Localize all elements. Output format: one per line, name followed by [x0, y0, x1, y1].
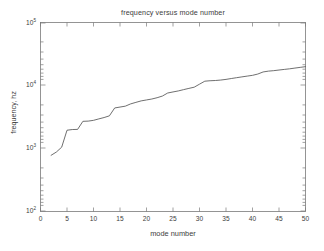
y-axis-ticks-right	[301, 23, 306, 211]
ytick-label-1e2: 102	[14, 207, 36, 214]
x-axis-ticks	[41, 23, 306, 212]
data-series-line	[51, 67, 305, 156]
xtick-label-35: 35	[216, 215, 236, 222]
xtick-label-50: 50	[296, 215, 316, 222]
ytick-exponent: 2	[33, 206, 36, 211]
ytick-label-1e5: 105	[14, 19, 36, 26]
xtick-label-0: 0	[31, 215, 51, 222]
xtick-label-15: 15	[110, 215, 130, 222]
xtick-label-5: 5	[57, 215, 77, 222]
y-axis-ticks	[41, 23, 46, 211]
xtick-label-25: 25	[163, 215, 183, 222]
x-axis-label: mode number	[40, 229, 306, 238]
figure-canvas: frequency versus mode number	[0, 0, 324, 251]
xtick-label-20: 20	[137, 215, 157, 222]
xtick-label-10: 10	[84, 215, 104, 222]
y-axis-label: frequency, hz	[9, 73, 18, 153]
ytick-exponent: 3	[33, 143, 36, 148]
xtick-label-40: 40	[243, 215, 263, 222]
plot-area	[0, 0, 324, 251]
ytick-exponent: 4	[33, 80, 36, 85]
xtick-label-45: 45	[269, 215, 289, 222]
xtick-label-30: 30	[190, 215, 210, 222]
ytick-exponent: 5	[33, 18, 36, 23]
plot-frame	[41, 23, 306, 212]
